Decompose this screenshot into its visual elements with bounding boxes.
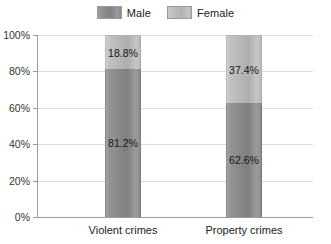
x-axis-line: [37, 217, 313, 218]
y-tick-100: [33, 35, 37, 36]
y-tick-label-0: 0%: [15, 211, 30, 223]
bar-group-violent-crimes[interactable]: 81.2% 18.8%: [105, 35, 141, 217]
bar-segment-female-violent[interactable]: 18.8%: [105, 35, 141, 69]
gridline-20: [38, 181, 313, 182]
bar-segment-female-property[interactable]: 37.4%: [226, 35, 262, 103]
y-axis-line: [37, 35, 38, 218]
y-tick-40: [33, 144, 37, 145]
plot-area: 100% 80% 60% 40% 20% 0% 81.2% 18.8%: [37, 35, 313, 218]
bar-label-male-violent: 81.2%: [108, 137, 138, 149]
legend-label-female: Female: [197, 7, 234, 19]
bar-segment-male-violent[interactable]: 81.2%: [105, 69, 141, 217]
bar-label-female-violent: 18.8%: [108, 47, 138, 59]
chart-legend: Male Female: [0, 6, 331, 19]
gridline-40: [38, 144, 313, 145]
legend-item-male[interactable]: Male: [97, 6, 151, 19]
legend-swatch-male-icon: [97, 6, 122, 19]
x-tick-label-violent-crimes: Violent crimes: [89, 224, 158, 236]
gridline-80: [38, 71, 313, 72]
y-tick-60: [33, 108, 37, 109]
y-tick-label-60: 60%: [9, 102, 30, 114]
x-tick-label-property-crimes: Property crimes: [205, 224, 282, 236]
y-tick-label-100: 100%: [3, 29, 30, 41]
y-tick-0: [33, 217, 37, 218]
y-tick-20: [33, 181, 37, 182]
y-tick-label-40: 40%: [9, 138, 30, 150]
bar-group-property-crimes[interactable]: 62.6% 37.4%: [226, 35, 262, 217]
bar-label-female-property: 37.4%: [229, 64, 259, 76]
y-tick-label-80: 80%: [9, 65, 30, 77]
gridline-60: [38, 108, 313, 109]
gridline-100: [38, 35, 313, 36]
legend-label-male: Male: [127, 7, 151, 19]
bar-label-male-property: 62.6%: [229, 154, 259, 166]
y-tick-80: [33, 71, 37, 72]
y-tick-label-20: 20%: [9, 175, 30, 187]
legend-swatch-female-icon: [167, 6, 192, 19]
bar-segment-male-property[interactable]: 62.6%: [226, 103, 262, 217]
stacked-bar-chart: Male Female 100% 80% 60% 40% 20% 0%: [0, 0, 331, 244]
legend-item-female[interactable]: Female: [167, 6, 234, 19]
